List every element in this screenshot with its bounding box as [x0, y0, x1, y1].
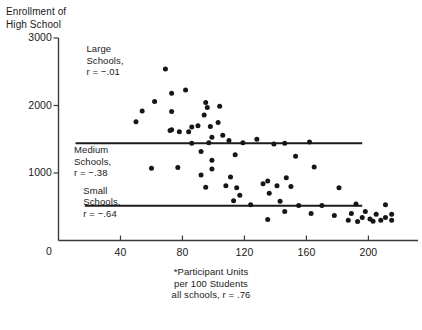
data-point	[371, 219, 376, 224]
data-point	[133, 119, 138, 124]
data-point	[354, 202, 359, 207]
data-point	[307, 139, 312, 144]
data-point	[278, 199, 283, 204]
data-point	[216, 120, 221, 125]
data-point	[389, 218, 394, 223]
data-point	[228, 175, 233, 180]
data-point	[274, 183, 279, 188]
data-point	[248, 202, 253, 207]
data-point	[199, 149, 204, 154]
y-tick-label: 0	[8, 245, 52, 257]
data-point	[355, 219, 360, 224]
data-point	[202, 112, 207, 117]
data-point	[309, 211, 314, 216]
data-point	[296, 203, 301, 208]
data-point	[177, 129, 182, 134]
y-tick-label: 2000	[8, 99, 52, 111]
scatter-plot-figure: Enrollment of High School 3000200010000 …	[0, 0, 422, 330]
data-point	[199, 173, 204, 178]
data-point	[189, 141, 194, 146]
data-point	[183, 87, 188, 92]
data-point	[312, 164, 317, 169]
data-point	[261, 181, 266, 186]
data-point	[205, 105, 210, 110]
data-point	[383, 202, 388, 207]
x-tick-label: 120	[224, 246, 264, 258]
data-point	[186, 129, 191, 134]
data-point	[208, 124, 213, 129]
y-tick-label: 3000	[8, 31, 52, 43]
data-point	[189, 125, 194, 130]
data-point	[293, 154, 298, 159]
data-point	[169, 91, 174, 96]
data-point	[374, 212, 379, 217]
data-point	[203, 185, 208, 190]
data-point	[265, 217, 270, 222]
data-point	[234, 185, 239, 190]
annotation-large-schools: Large Schools, r = −.01	[86, 43, 123, 78]
data-point	[271, 141, 276, 146]
footnote: *Participant Units per 100 Students all …	[131, 266, 291, 301]
data-point	[206, 140, 211, 145]
x-tick-label: 160	[286, 246, 326, 258]
data-point	[282, 141, 287, 146]
data-point	[265, 179, 270, 184]
data-point	[149, 166, 154, 171]
data-point	[168, 128, 173, 133]
data-point	[152, 99, 157, 104]
data-point	[233, 152, 238, 157]
data-point	[378, 218, 383, 223]
annotation-medium-schools: Medium Schools, r = −.38	[74, 144, 111, 179]
data-point	[223, 183, 228, 188]
data-point	[203, 100, 208, 105]
data-point	[346, 218, 351, 223]
data-point	[332, 213, 337, 218]
data-point	[220, 133, 225, 138]
data-point	[209, 166, 214, 171]
data-point	[288, 184, 293, 189]
data-point	[237, 193, 242, 198]
data-point	[195, 123, 200, 128]
data-points-layer	[133, 67, 394, 225]
data-point	[217, 104, 222, 109]
data-point	[336, 185, 341, 190]
data-point	[169, 109, 174, 114]
data-point	[389, 212, 394, 217]
data-point	[383, 215, 388, 220]
data-point	[226, 138, 231, 143]
data-point	[360, 215, 365, 220]
data-point	[240, 140, 245, 145]
data-point	[175, 165, 180, 170]
x-tick-label: 40	[100, 246, 140, 258]
data-point	[284, 175, 289, 180]
data-point	[282, 209, 287, 214]
data-point	[319, 203, 324, 208]
data-point	[363, 209, 368, 214]
data-point	[209, 135, 214, 140]
data-point	[349, 211, 354, 216]
data-point	[267, 191, 272, 196]
data-point	[140, 108, 145, 113]
annotation-small-schools: Small Schools, r = −.64	[83, 185, 120, 220]
data-point	[163, 67, 168, 72]
x-tick-label: 80	[162, 246, 202, 258]
data-point	[209, 158, 214, 163]
data-point	[254, 137, 259, 142]
y-tick-label: 1000	[8, 166, 52, 178]
data-point	[231, 198, 236, 203]
x-tick-label: 200	[348, 246, 388, 258]
